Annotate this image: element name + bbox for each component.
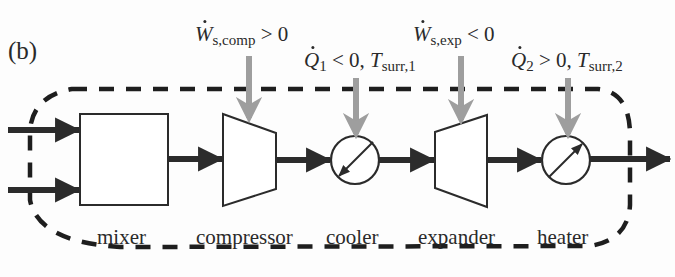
heat-subscript: 1 bbox=[319, 58, 327, 74]
mixer-label: mixer bbox=[97, 227, 146, 248]
mixer-block bbox=[80, 114, 168, 205]
temperature-subscript: surr,2 bbox=[589, 58, 623, 74]
work-relation: < 0 bbox=[467, 22, 495, 46]
heat-symbol: Q bbox=[304, 50, 319, 71]
work-relation: > 0 bbox=[261, 22, 289, 46]
temperature-subscript: surr,1 bbox=[382, 58, 416, 74]
compressor-label: compressor bbox=[196, 227, 293, 248]
heat-relation: < 0 bbox=[332, 48, 360, 72]
heater-label: heater bbox=[537, 227, 588, 248]
cooler-label: cooler bbox=[326, 227, 378, 248]
expander-label: expander bbox=[418, 227, 495, 248]
temperature-symbol: T bbox=[577, 48, 589, 72]
temperature-symbol: T bbox=[370, 48, 382, 72]
heat-subscript: 2 bbox=[526, 58, 534, 74]
cooler-block bbox=[331, 136, 379, 184]
panel-label: (b) bbox=[8, 38, 37, 63]
work-subscript: s,exp bbox=[431, 32, 462, 48]
cooler-heat-label: Q1 < 0, Tsurr,1 bbox=[304, 50, 416, 71]
expander-work-label: Ws,exp < 0 bbox=[413, 24, 495, 45]
compressor-block bbox=[223, 114, 276, 206]
heater-block bbox=[542, 136, 590, 184]
expander-block bbox=[435, 115, 487, 207]
work-subscript: s,comp bbox=[213, 32, 256, 48]
heater-heat-label: Q2 > 0, Tsurr,2 bbox=[511, 50, 623, 71]
work-symbol: W bbox=[195, 24, 213, 45]
heat-relation: > 0 bbox=[539, 48, 567, 72]
work-symbol: W bbox=[413, 24, 431, 45]
compressor-work-label: Ws,comp > 0 bbox=[195, 24, 288, 45]
heat-symbol: Q bbox=[511, 50, 526, 71]
